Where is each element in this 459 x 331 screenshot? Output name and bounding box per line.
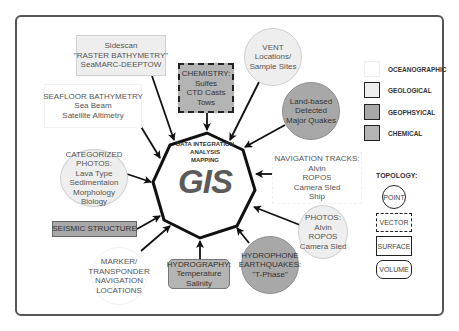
legend-geophysical: GEOPHSYICAL	[364, 104, 435, 120]
node-line: Camera Sled	[294, 183, 341, 193]
node-line: Biology	[81, 197, 107, 207]
topology-point: POINT	[382, 185, 406, 209]
node-marker-transponder: MARKER/ TRANSPONDER NAVIGATION LOCATIONS	[91, 247, 147, 305]
center-line-1: DATA INTEGRATION	[150, 140, 260, 148]
node-seafloor-bathymetry: SEAFLOOR BATHYMETRY Sea Beam Satellite A…	[44, 84, 142, 128]
arrow-hydrophone	[237, 228, 249, 243]
node-line: VENT	[262, 43, 283, 53]
swatch-chemical	[364, 125, 380, 141]
node-line: EARTHQUAKES:	[239, 260, 302, 270]
node-line: Satellite Altimetry	[62, 111, 123, 121]
topology-volume: VOLUME	[376, 260, 412, 279]
node-line: Temperature	[177, 269, 222, 279]
node-line: Morphology	[73, 188, 115, 198]
node-line: PHOTOS:	[305, 213, 341, 223]
node-line: Lava Type	[76, 169, 113, 179]
topology-vector: VECTOR	[376, 213, 412, 232]
node-line: SEISMIC STRUCTURE	[52, 224, 136, 234]
node-line: HYDROPHONE	[241, 251, 298, 261]
topology-label: VECTOR	[379, 219, 408, 226]
center-line-2: ANALYSIS	[150, 148, 260, 156]
node-categorized-photos: CATEGORIZED PHOTOS: Lava Type Sedimentai…	[60, 149, 128, 207]
node-line: NAVIGATION TRACKS:	[275, 154, 360, 164]
swatch-geophysical	[364, 104, 380, 120]
gis-title: GIS	[150, 165, 260, 199]
node-hydrography: HYDROGRAPHY: Temperature Salinity	[168, 259, 230, 289]
legend-label: OCEANOGRAPHIC	[388, 66, 447, 73]
topology-label: VOLUME	[379, 266, 409, 273]
arrow-vent	[230, 82, 259, 140]
swatch-geological	[364, 82, 380, 98]
swatch-oceanographic	[364, 61, 380, 77]
node-line: Sample Sites	[249, 62, 296, 72]
legend-chemical: CHEMICAL	[364, 125, 422, 141]
topology-label: POINT	[383, 194, 404, 201]
node-line: Camera Sled	[300, 242, 347, 252]
node-line: ROPOS	[309, 232, 338, 242]
node-line: HYDROGRAPHY:	[167, 260, 231, 270]
gis-center: DATA INTEGRATION ANALYSIS MAPPING GIS	[150, 140, 260, 199]
node-line: Sidescan	[105, 41, 138, 51]
arrow-sidescan	[152, 76, 174, 140]
node-line: Tows	[197, 98, 215, 108]
node-line: ROPOS	[303, 173, 332, 183]
legend-label: CHEMICAL	[388, 130, 422, 137]
node-line: SeaMARC-DEEPTOW	[81, 60, 162, 70]
arrow-marker	[141, 226, 170, 251]
node-line: PHOTOS:	[76, 159, 112, 169]
node-line: Salinity	[186, 279, 212, 289]
arrow-seismic	[137, 216, 160, 229]
node-land-based-quakes: Land-based Detected Major Quakes	[282, 82, 340, 140]
node-navigation-tracks: NAVIGATION TRACKS: Alvin ROPOS Camera Sl…	[272, 152, 362, 204]
node-line: CTD Casts	[186, 88, 225, 98]
node-line: MARKER/	[101, 257, 137, 267]
legend-label: GEOPHSYICAL	[388, 109, 435, 116]
topology-surface: SURFACE	[376, 236, 412, 256]
node-line: Sea Beam	[74, 101, 111, 111]
node-line: CHEMISTRY:	[182, 69, 231, 79]
node-line: SEAFLOOR BATHYMETRY	[43, 92, 143, 102]
topology-title: TOPOLOGY:	[376, 172, 417, 179]
node-line: Alvin	[308, 164, 325, 174]
node-line: Locations/	[255, 52, 291, 62]
node-line: Sedimentaion	[70, 178, 119, 188]
topology-label: SURFACE	[377, 243, 410, 250]
arrow-photos	[254, 207, 300, 225]
node-line: Ship	[309, 192, 325, 202]
node-photos: PHOTOS: Alvin ROPOS Camera Sled	[298, 205, 348, 259]
node-vent: VENT Locations/ Sample Sites	[244, 28, 302, 86]
node-line: Major Quakes	[286, 116, 336, 126]
node-line: CATEGORIZED	[65, 150, 122, 160]
node-line: LOCATIONS	[96, 286, 142, 296]
node-line: Sulfes	[195, 79, 217, 89]
legend-geological: GEOLOGICAL	[364, 82, 432, 98]
node-seismic-structure: SEISMIC STRUCTURE	[52, 221, 137, 237]
arrow-categorized-photos	[127, 174, 151, 182]
legend-label: GEOLOGICAL	[388, 87, 432, 94]
node-line: Land-based	[290, 97, 332, 107]
node-hydrophone-earthquakes: HYDROPHONE EARTHQUAKES: "T-Phase"	[241, 236, 299, 294]
node-line: TRANSPONDER	[88, 267, 149, 277]
node-sidescan: Sidescan "RASTER BATHYMETRY" SeaMARC-DEE…	[76, 35, 166, 76]
node-line: Detected	[295, 106, 327, 116]
node-chemistry: CHEMISTRY: Sulfes CTD Casts Tows	[178, 63, 234, 113]
node-line: NAVIGATION	[95, 276, 143, 286]
node-line: Alvin	[314, 223, 331, 233]
node-line: "RASTER BATHYMETRY"	[74, 51, 168, 61]
legend-oceanographic: OCEANOGRAPHIC	[364, 61, 447, 77]
node-line: "T-Phase"	[252, 270, 287, 280]
